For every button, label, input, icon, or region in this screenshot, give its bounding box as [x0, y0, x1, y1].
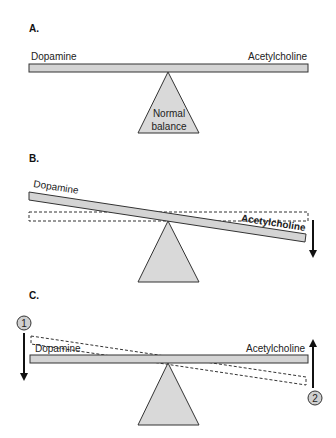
panel-a: A. Dopamine Acetylcholine Normal balance [29, 23, 308, 133]
panel-a-fulcrum-label-line2: balance [151, 121, 186, 132]
panel-a-dopamine-label: Dopamine [31, 51, 77, 62]
step-1-marker-label: 1 [21, 318, 27, 329]
panel-c-beam [30, 355, 308, 363]
seesaw-diagram: A. Dopamine Acetylcholine Normal balance… [0, 0, 336, 438]
panel-b-label: B. [29, 153, 39, 164]
panel-a-fulcrum-label-line1: Normal [153, 108, 185, 119]
panel-c-dopamine-label: Dopamine [35, 343, 81, 354]
panel-b: B. Dopamine Acetylcholine [29, 153, 313, 282]
panel-c: C. Dopamine Acetylcholine 1 2 [17, 290, 322, 425]
panel-a-beam [29, 64, 308, 72]
panel-c-fulcrum [138, 363, 199, 425]
step-2-marker-label: 2 [312, 393, 318, 404]
panel-c-acetylcholine-label: Acetylcholine [246, 343, 305, 354]
panel-a-acetylcholine-label: Acetylcholine [248, 51, 307, 62]
panel-a-label: A. [29, 23, 39, 34]
panel-c-label: C. [29, 290, 39, 301]
panel-b-fulcrum [138, 221, 199, 282]
